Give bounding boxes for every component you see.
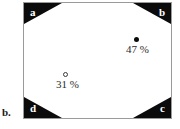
open-circle-icon <box>63 72 68 77</box>
corner-triangle-top-right <box>133 3 171 24</box>
corner-label-d: d <box>30 103 36 114</box>
datapoint-label-47: 47 % <box>126 44 149 55</box>
corner-label-b: b <box>159 7 165 18</box>
filled-circle-icon <box>134 37 139 42</box>
diagram-box: a b c d 47 % 31 % <box>23 2 172 119</box>
figure-panel: b. a b c d 47 % 31 % <box>0 0 180 129</box>
corner-label-a: a <box>30 7 36 18</box>
corner-triangle-bottom-right <box>133 97 171 118</box>
datapoint-label-31: 31 % <box>56 79 79 90</box>
corner-label-c: c <box>160 103 165 114</box>
panel-caption-label: b. <box>2 107 11 118</box>
